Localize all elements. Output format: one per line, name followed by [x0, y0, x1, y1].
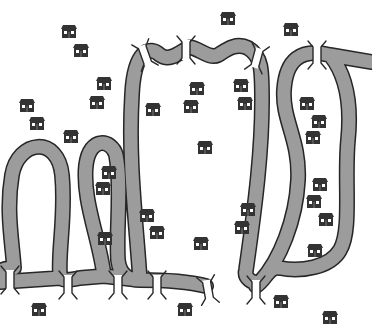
- house-icon: [139, 209, 155, 222]
- house-icon: [299, 97, 315, 110]
- house-icon: [237, 97, 253, 110]
- house-icon: [149, 226, 165, 239]
- house-icon: [234, 221, 250, 234]
- house-icon: [193, 237, 209, 250]
- house-icon: [197, 141, 213, 154]
- house-icon: [311, 115, 327, 128]
- house-icon: [31, 303, 47, 316]
- house-icon: [306, 195, 322, 208]
- house-icon: [240, 203, 256, 216]
- house-icon: [89, 96, 105, 109]
- house-icon: [177, 303, 193, 316]
- house-icon: [95, 182, 111, 195]
- house-icon: [220, 12, 236, 25]
- house-icon: [183, 100, 199, 113]
- house-icon: [305, 131, 321, 144]
- house-icon: [283, 23, 299, 36]
- house-icon: [318, 213, 334, 226]
- house-icon: [307, 244, 323, 257]
- house-icon: [233, 79, 249, 92]
- house-icon: [61, 25, 77, 38]
- house-icon: [63, 130, 79, 143]
- house-icon: [73, 44, 89, 57]
- house-icon: [19, 99, 35, 112]
- house-icon: [273, 295, 289, 308]
- house-icon: [101, 166, 117, 179]
- house-icon: [97, 232, 113, 245]
- house-icon: [322, 311, 338, 324]
- house-icon: [29, 117, 45, 130]
- house-icon: [312, 178, 328, 191]
- house-icon: [96, 77, 112, 90]
- river-village-illustration: [0, 0, 372, 324]
- house-icon: [145, 103, 161, 116]
- house-icon: [189, 82, 205, 95]
